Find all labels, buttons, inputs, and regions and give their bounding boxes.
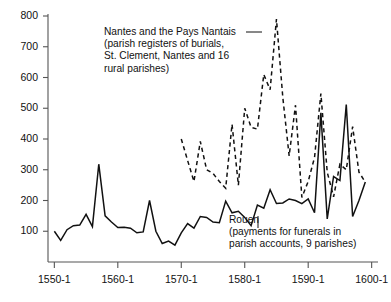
x-tick-label-1550: 1550-1: [25, 273, 83, 285]
x-tick-label-1580: 1580-1: [216, 273, 274, 285]
chart-container: 100200300400500600700800 1550-11560-1157…: [0, 0, 391, 302]
annotation-rouen-line1: Rouen: [229, 214, 356, 226]
x-axis-ticks: [54, 262, 371, 268]
y-tick-label-500: 500: [4, 101, 38, 113]
y-tick-label-300: 300: [4, 163, 38, 175]
annotation-nantes-line2: (parish registers of burials,: [104, 38, 236, 50]
x-tick-label-1600: 1600-1: [343, 273, 391, 285]
annotation-rouen-line2: (payments for funerals in: [229, 226, 356, 238]
y-tick-label-800: 800: [4, 9, 38, 21]
y-tick-label-700: 700: [4, 40, 38, 52]
y-tick-label-400: 400: [4, 132, 38, 144]
x-tick-label-1590: 1590-1: [279, 273, 337, 285]
annotation-rouen: Rouen (payments for funerals in parish a…: [229, 214, 356, 251]
annotation-nantes-line4: rural parishes): [104, 63, 236, 75]
annotation-leader-lines: [246, 32, 262, 228]
annotation-rouen-line3: parish accounts, 9 parishes): [229, 238, 356, 250]
y-tick-label-100: 100: [4, 224, 38, 236]
y-tick-label-600: 600: [4, 71, 38, 83]
x-tick-label-1570: 1570-1: [152, 273, 210, 285]
y-tick-label-200: 200: [4, 194, 38, 206]
y-axis-ticks: [43, 16, 48, 231]
annotation-nantes: Nantes and the Pays Nantais (parish regi…: [104, 26, 236, 75]
annotation-nantes-line1: Nantes and the Pays Nantais: [104, 26, 236, 38]
annotation-nantes-line3: St. Clement, Nantes and 16: [104, 50, 236, 62]
x-tick-label-1560: 1560-1: [89, 273, 147, 285]
